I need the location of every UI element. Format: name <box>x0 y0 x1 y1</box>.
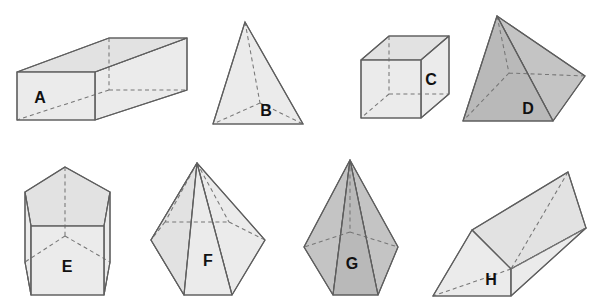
solid-c-label: C <box>425 71 437 88</box>
solid-c-front-face <box>361 60 421 118</box>
solid-e-pentagonal-prism[interactable]: E <box>25 167 110 295</box>
solid-a-front-face <box>17 72 95 120</box>
solid-d-label: D <box>522 100 534 117</box>
solid-e-top-face <box>25 167 110 226</box>
solid-h-triangular-prism[interactable]: H <box>433 172 586 296</box>
solid-d-square-pyramid[interactable]: D <box>463 16 585 121</box>
solid-e-label: E <box>62 258 73 275</box>
solid-a-rectangular-prism[interactable]: A <box>17 38 187 120</box>
solid-f-hexagonal-pyramid[interactable]: F <box>151 163 265 295</box>
solid-b-tetrahedron[interactable]: B <box>213 22 303 124</box>
solid-g-pentagonal-pyramid[interactable]: G <box>304 160 398 295</box>
solid-b-left-face <box>213 22 303 124</box>
solid-f-label: F <box>203 252 213 269</box>
solid-b-label: B <box>260 102 272 119</box>
solid-g-label: G <box>346 255 358 272</box>
solids-canvas: A B C D <box>0 0 606 304</box>
solid-c-cube[interactable]: C <box>361 36 449 118</box>
solid-h-label: H <box>485 271 497 288</box>
geometric-solids-figure: A B C D <box>0 0 606 304</box>
solid-a-label: A <box>34 89 46 106</box>
